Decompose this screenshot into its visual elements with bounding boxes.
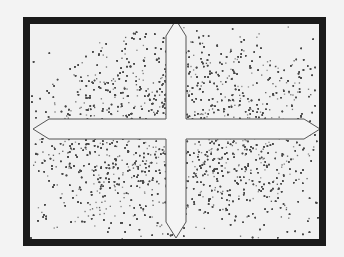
cross-shape <box>33 20 320 238</box>
cross-arrows-icon <box>23 17 326 246</box>
figure-frame <box>23 17 326 246</box>
